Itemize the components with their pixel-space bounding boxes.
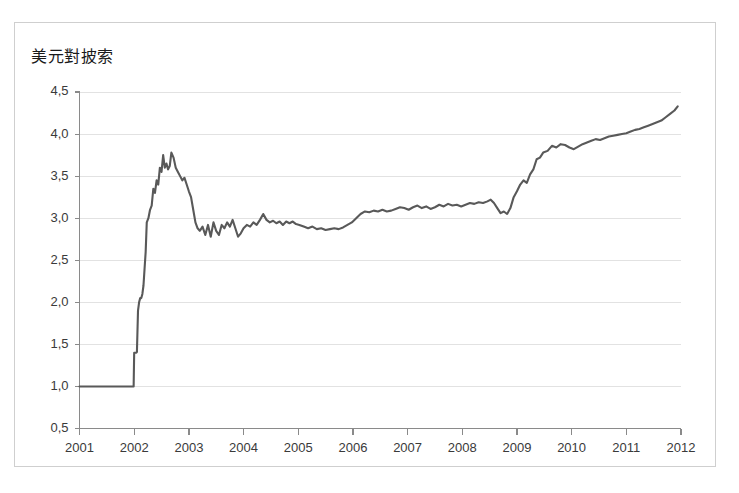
y-tick-label: 3,5 [50,168,68,183]
x-tick-label: 2012 [667,440,696,455]
y-tick-labels-group: 4,54,03,53,02,52,01,51,00,5 [50,83,68,435]
x-tick-label: 2001 [65,440,94,455]
x-tick-label: 2011 [612,440,640,455]
x-tick-label: 2007 [393,440,422,455]
y-tick-label: 0,5 [50,420,68,435]
x-tick-label: 2004 [229,440,258,455]
line-chart-svg: 4,54,03,53,02,52,01,51,00,5 200120022003… [15,23,717,468]
gridlines-group [80,92,682,386]
x-tick-label: 2010 [557,440,586,455]
x-tick-label: 2008 [448,440,477,455]
y-tick-label: 2,5 [50,252,68,267]
y-tick-label: 1,5 [50,336,68,351]
x-tick-label: 2009 [503,440,532,455]
chart-figure: 美元對披索 4,54,03,53,02,52,01,51,00,5 200120… [14,22,716,467]
x-tick-label: 2005 [284,440,313,455]
y-tick-label: 3,0 [50,210,68,225]
x-tick-label: 2002 [120,440,149,455]
y-tick-label: 4,0 [50,126,68,141]
tick-marks-group [75,92,682,435]
y-tick-label: 1,0 [50,378,68,393]
x-tick-label: 2003 [174,440,203,455]
x-tick-label: 2006 [338,440,367,455]
x-tick-labels-group: 2001200220032004200520062007200820092010… [65,440,695,455]
y-tick-label: 2,0 [50,294,68,309]
y-tick-label: 4,5 [50,83,68,98]
plot-area: 4,54,03,53,02,52,01,51,00,5 200120022003… [15,23,717,468]
